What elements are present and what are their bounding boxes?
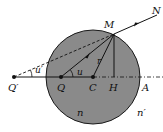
label-r: r <box>97 56 102 66</box>
label-m: M <box>103 19 115 30</box>
label-q: Q <box>57 82 65 93</box>
point-q <box>59 75 63 79</box>
label-n-medium: n <box>77 107 83 118</box>
label-u: u <box>77 67 83 77</box>
refracted-ray-arrow-icon <box>134 23 139 27</box>
label-n-prime-medium: n′ <box>137 107 146 118</box>
label-a: A <box>141 82 149 93</box>
refraction-diagram: M N Q′ Q C H A r u u′ n n′ <box>0 0 163 132</box>
point-c <box>91 75 95 79</box>
label-u-prime: u′ <box>35 65 43 75</box>
angle-u-prime-arc <box>31 70 33 77</box>
label-h: H <box>108 82 118 93</box>
label-q-prime: Q′ <box>8 82 19 93</box>
point-q-prime <box>12 75 16 79</box>
label-n: N <box>151 5 162 16</box>
label-c: C <box>89 82 97 93</box>
